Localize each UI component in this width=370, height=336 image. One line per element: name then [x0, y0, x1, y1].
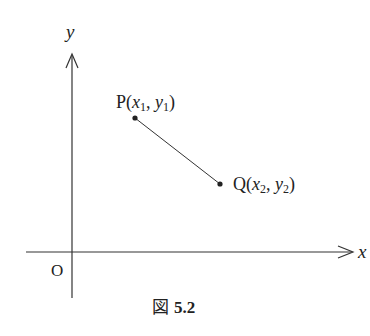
y-axis-label: y: [64, 21, 75, 42]
origin-label: O: [51, 261, 63, 280]
caption-prefix: 図: [152, 298, 169, 317]
segment-pq: [135, 118, 220, 184]
point-q-label: Q(x2, y2): [233, 174, 295, 196]
point-q-dot: [217, 181, 222, 186]
x-axis-label: x: [357, 241, 367, 262]
caption-number: 5.2: [174, 298, 195, 317]
coordinate-diagram: y x O P(x1, y1) Q(x2, y2) 図5.2: [0, 0, 370, 336]
point-p-dot: [132, 115, 137, 120]
point-p-label: P(x1, y1): [116, 92, 175, 114]
figure-caption: 図5.2: [152, 298, 195, 317]
figure-canvas: y x O P(x1, y1) Q(x2, y2) 図5.2: [0, 0, 370, 336]
